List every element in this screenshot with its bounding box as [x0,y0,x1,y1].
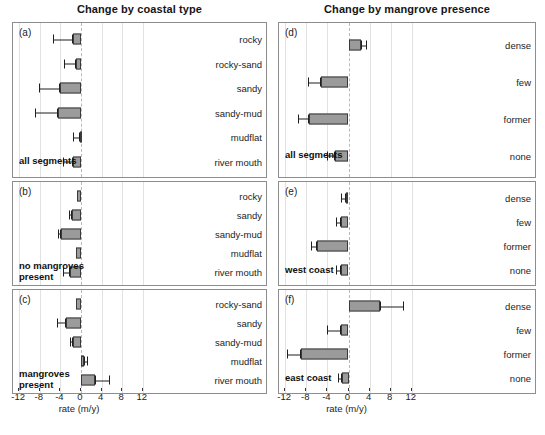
error-bar-cap [366,41,367,50]
error-bar [287,350,301,359]
panel-stack-mangrove: densefewformernone(d)all segmentsdensefe… [278,22,536,397]
error-bar [338,374,342,383]
chart-row: sandy-mud [13,224,266,243]
error-bar-line [95,380,109,381]
error-bar [69,210,72,219]
axis-tick-label: -12 [11,391,25,402]
error-bar [64,59,76,68]
chart-bar [341,265,349,276]
chart-bar [60,83,81,94]
error-bar-cap [71,210,72,219]
error-bar-cap [57,108,58,117]
category-label: dense [505,40,531,51]
category-label: rocky-sand [216,298,262,309]
category-label: rocky-sand [216,58,262,69]
category-label: river mouth [214,267,262,278]
error-bar-line [53,39,73,40]
chart-row: former [279,342,535,366]
category-label: river mouth [214,156,262,167]
error-bar [361,41,368,50]
axis-tick-label: 4 [366,391,371,402]
axis-tick-label: 0 [345,391,350,402]
chart-row: few [279,318,535,342]
error-bar-line [39,88,60,89]
category-label: none [510,265,531,276]
chart-panel-c: rocky-sandsandysandy-mudmudflatriver mou… [12,289,267,394]
error-bar-cap [336,266,337,275]
x-axis-coastal: -12-8-404812rate (m/y) [12,388,267,416]
chart-row: few [279,210,535,234]
error-bar-cap [73,133,74,142]
error-bar-line [287,354,301,355]
error-bar-cap [65,318,66,327]
chart-row: mudflat [13,125,266,150]
chart-row: rocky-sand [13,294,266,313]
error-bar-cap [380,302,381,311]
error-bar-cap [338,374,339,383]
axis-label: rate (m/y) [12,403,146,414]
error-bar-cap [316,242,317,251]
chart-bar [61,228,81,239]
error-bar [73,133,80,142]
chart-row: rocky [13,186,266,205]
x-axis-mangrove: -12-8-404812rate (m/y) [278,388,536,416]
group-caption: all segments [285,150,343,161]
chart-row: former [279,101,535,138]
category-label: few [516,325,531,336]
error-bar-cap [84,357,85,366]
axis-tick-label: -4 [55,391,63,402]
error-bar-cap [109,376,110,385]
error-bar-line [380,306,404,307]
error-bar [336,218,340,227]
chart-row: sandy-mud [13,101,266,126]
panel-letter: (f) [285,294,294,305]
group-caption: no mangroves present [19,261,84,282]
panel-letter: (c) [19,294,31,305]
category-label: few [516,217,531,228]
error-bar-cap [64,59,65,68]
axis-tick-label: 8 [119,391,124,402]
chart-row: sandy [13,313,266,332]
error-bar-cap [336,218,337,227]
error-bar-cap [75,59,76,68]
chart-bar [73,336,81,347]
chart-bar [58,107,81,118]
axis-tick-label: 8 [387,391,392,402]
error-bar [95,376,109,385]
chart-bar [309,113,348,124]
chart-row: dense [279,27,535,64]
axis-tick-label: -4 [322,391,330,402]
error-bar [39,84,60,93]
error-bar [336,266,341,275]
category-label: sandy [237,83,262,94]
error-bar-cap [340,326,341,335]
panel-letter: (d) [285,27,297,38]
error-bar-cap [403,302,404,311]
chart-bar [76,298,81,309]
category-label: sandy-mud [215,107,262,118]
column-title-mangrove: Change by mangrove presence [278,3,536,15]
error-bar-cap [35,108,36,117]
error-bar-line [35,113,58,114]
chart-bar [76,248,81,259]
error-bar-cap [320,78,321,87]
error-bar [58,229,61,238]
error-bar [327,326,340,335]
category-label: sandy-mud [215,228,262,239]
error-bar-cap [361,41,362,50]
error-bar-cap [87,357,88,366]
category-label: none [510,150,531,161]
chart-bar [349,40,361,51]
category-label: rocky [239,34,262,45]
chart-row: rocky-sand [13,52,266,77]
group-caption: all segments [19,156,77,167]
chart-bar [72,209,81,220]
error-bar-cap [53,35,54,44]
chart-bar [73,34,81,45]
chart-bar [342,373,348,384]
category-label: few [516,77,531,88]
error-bar [308,78,320,87]
axis-tick-label: 0 [77,391,82,402]
chart-panel-d: densefewformernone(d)all segments [278,22,536,178]
error-bar-cap [79,133,80,142]
